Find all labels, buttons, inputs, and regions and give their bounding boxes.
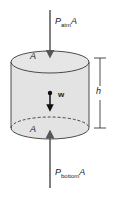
height-label: h	[96, 86, 101, 96]
bottom-force-label: PbottomA	[55, 167, 85, 179]
fluid-column-diagram: PatmA A w h A PbottomA	[0, 0, 114, 201]
weight-label: w	[58, 90, 64, 99]
bottom-area-label: A	[30, 124, 36, 134]
top-surface	[11, 51, 89, 73]
top-force-label: PatmA	[55, 16, 77, 28]
top-area-label: A	[30, 51, 36, 61]
